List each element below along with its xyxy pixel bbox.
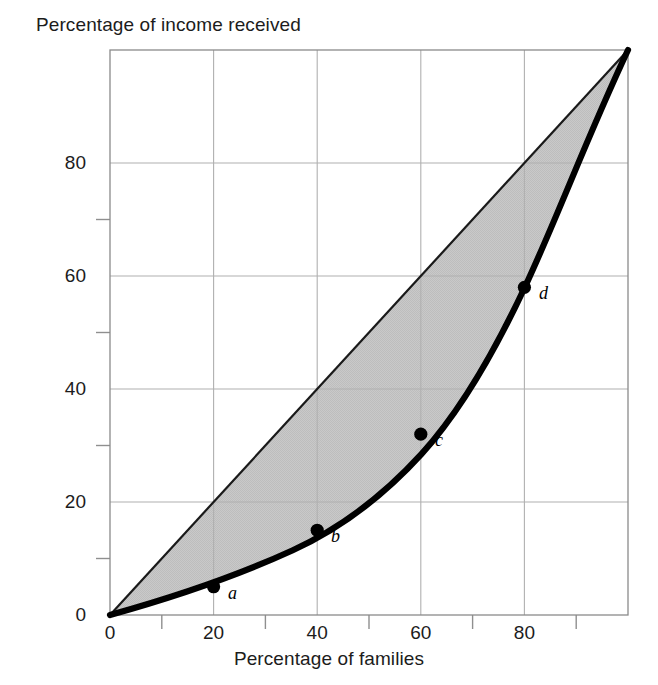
x-tick-label-0: 0 — [80, 622, 140, 644]
x-tick-label-60: 60 — [391, 622, 451, 644]
y-tick-label-0: 0 — [26, 604, 86, 626]
data-point-a — [207, 580, 220, 593]
y-tick-label-40: 40 — [26, 378, 86, 400]
data-point-d — [518, 281, 531, 294]
y-axis-minor-ticks — [96, 220, 110, 559]
plot-area — [0, 0, 658, 685]
y-tick-label-80: 80 — [26, 152, 86, 174]
point-label-a: a — [228, 583, 237, 604]
point-label-d: d — [539, 283, 548, 304]
data-point-b — [311, 524, 324, 537]
data-point-c — [414, 428, 427, 441]
y-tick-label-60: 60 — [26, 265, 86, 287]
point-label-c: c — [435, 430, 443, 451]
x-tick-label-20: 20 — [184, 622, 244, 644]
x-axis-title: Percentage of families — [0, 648, 658, 670]
line-of-equality — [110, 50, 628, 615]
y-tick-label-20: 20 — [26, 491, 86, 513]
x-tick-label-80: 80 — [494, 622, 554, 644]
point-label-b: b — [331, 526, 340, 547]
lorenz-curve-figure: Percentage of income received — [0, 0, 658, 685]
x-tick-label-40: 40 — [287, 622, 347, 644]
